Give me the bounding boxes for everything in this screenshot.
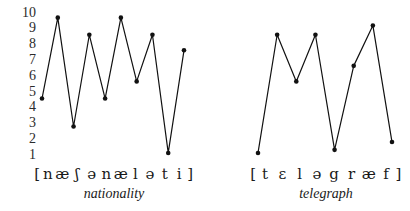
ipa-symbol: æ [55,165,70,183]
y-tick-9: 9 [8,21,36,35]
data-point [119,15,124,20]
y-tick-10: 10 [8,6,36,20]
line-chart-nationality [34,0,194,168]
y-tick-3: 3 [8,116,36,130]
ipa-transcription-telegraph: [tɛləgræf] [250,165,402,183]
chart-panel-nationality: [næʃənæləti] nationality [34,0,194,211]
chart-panel-telegraph: [tɛləgræf] telegraph [250,0,402,211]
ipa-symbol: r [343,165,360,183]
data-point [134,79,139,84]
data-point [390,140,395,145]
data-point [332,148,337,153]
y-tick-8: 8 [8,37,36,51]
series-line [42,18,184,153]
ipa-symbol: g [326,165,343,183]
y-axis-tick-labels: 10 9 8 7 6 5 4 3 2 1 [8,0,36,170]
ipa-symbol: ɛ [274,165,291,183]
ipa-bracket-close: ] [187,165,194,183]
plot-area-telegraph [250,0,402,168]
y-tick-7: 7 [8,53,36,67]
ipa-symbol: t [157,165,172,183]
data-point [371,23,376,28]
data-point [103,96,108,101]
y-tick-5: 5 [8,85,36,99]
y-tick-4: 4 [8,100,36,114]
ipa-symbol: f [377,165,394,183]
y-tick-6: 6 [8,69,36,83]
ipa-symbol: l [291,165,308,183]
series-line [258,25,392,153]
data-point [351,64,356,69]
ipa-symbol: ʃ [70,165,85,183]
plot-area-nationality [34,0,194,168]
ipa-symbol: ə [143,165,158,183]
data-point [275,32,280,37]
ipa-symbol: æ [360,165,377,183]
data-point [87,32,92,37]
ipa-symbol: t [256,165,273,183]
data-point [294,79,299,84]
ipa-symbol: ə [84,165,99,183]
ipa-symbol: i [172,165,187,183]
word-label-nationality: nationality [34,186,194,202]
ipa-bracket-close: ] [395,165,402,183]
ipa-transcription-nationality: [næʃənæləti] [34,165,194,183]
ipa-symbol: n [99,165,114,183]
word-label-telegraph: telegraph [250,186,402,202]
ipa-symbol: l [128,165,143,183]
line-chart-telegraph [250,0,402,168]
data-point [313,32,318,37]
data-point [71,124,76,129]
data-point [150,32,155,37]
ipa-symbol: n [40,165,55,183]
pitch-contour-figure: 10 9 8 7 6 5 4 3 2 1 [næʃənæləti] nation… [0,0,410,211]
ipa-symbol: ə [308,165,325,183]
data-point [166,151,171,156]
data-point [256,151,261,156]
data-point [182,48,187,53]
y-tick-2: 2 [8,132,36,146]
y-tick-1: 1 [8,148,36,162]
ipa-symbol: æ [114,165,129,183]
data-point [55,15,60,20]
data-point [40,96,45,101]
